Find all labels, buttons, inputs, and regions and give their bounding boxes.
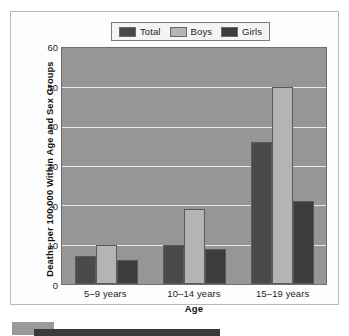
bar-boys-1[interactable] [184,209,205,284]
chart-legend: Total Boys Girls [111,22,270,41]
legend-label-boys: Boys [191,26,213,37]
bar-group [150,48,238,284]
y-tick-label-10: 10 [36,240,58,251]
x-tick-label-1: 10–14 years [150,288,239,299]
x-axis-title: Age [61,303,327,314]
bar-girls-2[interactable] [293,201,314,284]
bar-total-2[interactable] [251,142,272,284]
legend-item-boys[interactable]: Boys [170,26,213,37]
legend-item-total[interactable]: Total [119,26,161,37]
bar-girls-1[interactable] [205,249,226,284]
y-tick-label-30: 30 [36,161,58,172]
y-tick-label-20: 20 [36,200,58,211]
y-tick-label-50: 50 [36,81,58,92]
legend-label-girls: Girls [242,26,262,37]
bar-group [62,48,150,284]
bar-boys-2[interactable] [272,87,293,284]
next-figure-bar [34,329,220,336]
legend-swatch-boys [170,27,187,37]
next-figure-partial [0,320,349,336]
x-tick-label-0: 5–9 years [61,288,150,299]
y-tick-label-40: 40 [36,121,58,132]
y-tick-label-60: 60 [36,42,58,53]
x-tick-label-2: 15–19 years [238,288,327,299]
bars-layer [62,48,326,284]
bar-group [238,48,326,284]
legend-swatch-girls [221,27,238,37]
y-axis-tick-labels: 0102030405060 [33,47,58,285]
x-axis-tick-labels: 5–9 years10–14 years15–19 years [61,288,327,299]
plot-area [61,47,327,285]
legend-item-girls[interactable]: Girls [221,26,262,37]
bar-boys-0[interactable] [96,245,117,284]
bar-total-0[interactable] [75,256,96,284]
bar-total-1[interactable] [163,245,184,284]
legend-label-total: Total [140,26,161,37]
y-tick-label-0: 0 [36,280,58,291]
bar-girls-0[interactable] [117,260,138,284]
legend-swatch-total [119,27,136,37]
figure-card: Total Boys Girls Deaths per 100,000 With… [10,11,339,305]
